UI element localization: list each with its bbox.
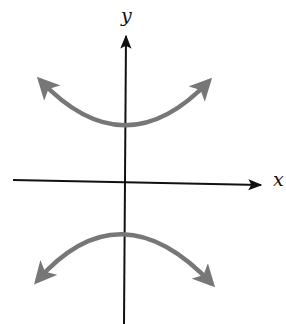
y-axis [124,36,126,324]
x-axis [13,180,261,185]
x-axis-label: x [273,170,284,189]
y-axis-label: y [121,6,132,25]
diagram-canvas [0,0,286,324]
